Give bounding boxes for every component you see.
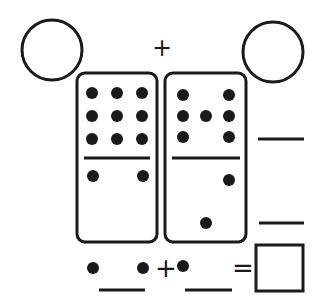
equals-sign: = — [232, 253, 254, 283]
left-domino-top-pip — [111, 87, 123, 99]
right-domino-bottom-pip — [223, 174, 235, 186]
right-domino-top-pip — [177, 89, 189, 101]
top-plus-sign: + — [152, 34, 172, 62]
left-domino-bottom-pip — [137, 170, 149, 182]
right-domino-top-pip — [177, 131, 189, 143]
left-domino-top-pip — [136, 110, 148, 122]
left-domino-top-pip — [111, 110, 123, 122]
right-domino-top-pip — [177, 110, 189, 122]
right-domino-bottom-pip — [200, 217, 212, 229]
right-answer-circle[interactable] — [243, 22, 303, 82]
pips — [86, 87, 235, 274]
right-domino-top-pip — [223, 131, 235, 143]
left-domino-bottom-pip — [87, 262, 99, 274]
left-answer-circle[interactable] — [22, 20, 82, 80]
left-domino-top-pip — [111, 133, 123, 145]
right-domino-top-pip — [223, 89, 235, 101]
right-domino-top-pip — [223, 110, 235, 122]
left-domino-top-pip — [86, 110, 98, 122]
left-domino-top-pip — [86, 87, 98, 99]
right-domino-bottom-pip — [177, 260, 189, 272]
left-domino-top-pip — [86, 133, 98, 145]
left-domino-bottom-pip — [137, 262, 149, 274]
left-domino-top-pip — [136, 133, 148, 145]
right-domino-top-pip — [200, 110, 212, 122]
left-domino-bottom-pip — [87, 170, 99, 182]
answer-box[interactable] — [256, 245, 303, 291]
worksheet: + + = — [0, 0, 319, 299]
left-domino-top-pip — [136, 87, 148, 99]
bottom-plus-sign: + — [155, 253, 177, 283]
